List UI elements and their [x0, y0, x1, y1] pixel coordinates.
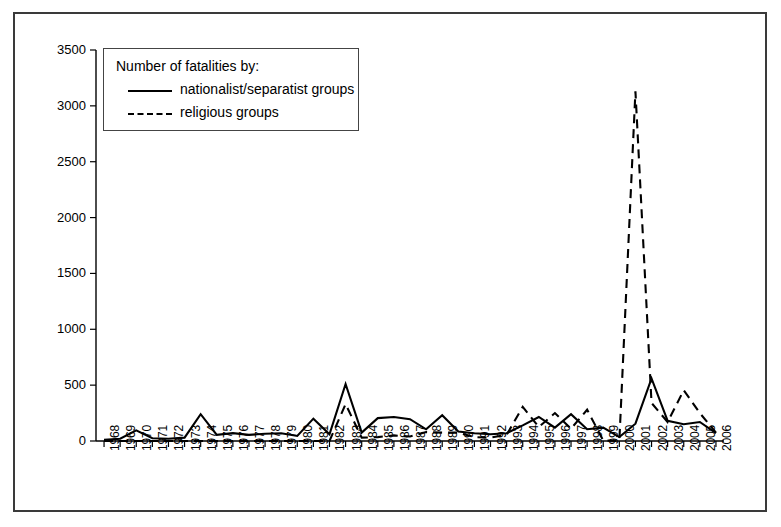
x-axis-tick-label: 1983 [351, 425, 363, 451]
y-axis-ticks [90, 50, 96, 441]
x-axis-tick-label: 1969 [125, 425, 137, 451]
x-axis-tick-label: 1979 [286, 425, 298, 451]
series-line-2 [104, 91, 716, 441]
legend-entry-label: religious groups [180, 104, 279, 120]
y-axis-tick-label: 500 [34, 378, 86, 391]
x-axis-tick-label: 1982 [334, 425, 346, 451]
x-axis-tick-label: 1981 [318, 425, 330, 451]
y-axis-tick-label: 2000 [34, 211, 86, 224]
x-axis-tick-label: 1997 [576, 425, 588, 451]
x-axis-tick-label: 1980 [302, 425, 314, 451]
x-axis-tick-label: 1975 [222, 425, 234, 451]
legend-title: Number of fatalities by: [116, 58, 259, 74]
y-axis-tick-label: 2500 [34, 155, 86, 168]
x-axis-tick-label: 1991 [479, 425, 491, 451]
data-series-layer [104, 91, 716, 441]
chart-legend: Number of fatalities by: nationalist/sep… [103, 48, 359, 131]
y-axis-tick-label: 3500 [34, 43, 86, 56]
x-axis-tick-label: 1992 [496, 425, 508, 451]
x-axis-tick-label: 1973 [190, 425, 202, 451]
x-axis-tick-label: 1994 [528, 425, 540, 451]
x-axis-tick-label: 1985 [383, 425, 395, 451]
x-axis-tick-label: 1988 [431, 425, 443, 451]
legend-entry-label: nationalist/separatist groups [180, 81, 354, 97]
x-axis-tick-label: 1989 [447, 425, 459, 451]
x-axis-tick-label: 1993 [512, 425, 524, 451]
x-axis-tick-label: 1999 [608, 425, 620, 451]
y-axis-tick-label: 1500 [34, 266, 86, 279]
x-axis-tick-label: 1976 [238, 425, 250, 451]
x-axis-tick-label: 1968 [109, 425, 121, 451]
x-axis-tick-label: 1998 [592, 425, 604, 451]
x-axis-tick-label: 2003 [673, 425, 685, 451]
x-axis-tick-label: 2006 [721, 425, 733, 451]
y-axis-tick-label: 3000 [34, 99, 86, 112]
legend-line-sample-solid-icon [128, 90, 172, 92]
x-axis-tick-label: 2001 [640, 425, 652, 451]
x-axis-tick-label: 1972 [173, 425, 185, 451]
x-axis-tick-label: 2005 [705, 425, 717, 451]
x-axis-tick-label: 1974 [206, 425, 218, 451]
y-axis-tick-label: 1000 [34, 322, 86, 335]
x-axis-tick-label: 1987 [415, 425, 427, 451]
x-axis-tick-label: 1970 [141, 425, 153, 451]
x-axis-tick-label: 2002 [657, 425, 669, 451]
x-axis-tick-label: 1996 [560, 425, 572, 451]
x-axis-tick-label: 1984 [367, 425, 379, 451]
legend-line-sample-dashed-icon [128, 113, 172, 115]
x-axis-tick-label: 1978 [270, 425, 282, 451]
x-axis-tick-label: 1977 [254, 425, 266, 451]
x-axis-tick-label: 1995 [544, 425, 556, 451]
x-axis-tick-label: 2004 [689, 425, 701, 451]
x-axis-tick-label: 2000 [624, 425, 636, 451]
x-axis-tick-label: 1986 [399, 425, 411, 451]
y-axis-tick-label: 0 [34, 434, 86, 447]
x-axis-tick-label: 1990 [463, 425, 475, 451]
x-axis-tick-label: 1971 [157, 425, 169, 451]
